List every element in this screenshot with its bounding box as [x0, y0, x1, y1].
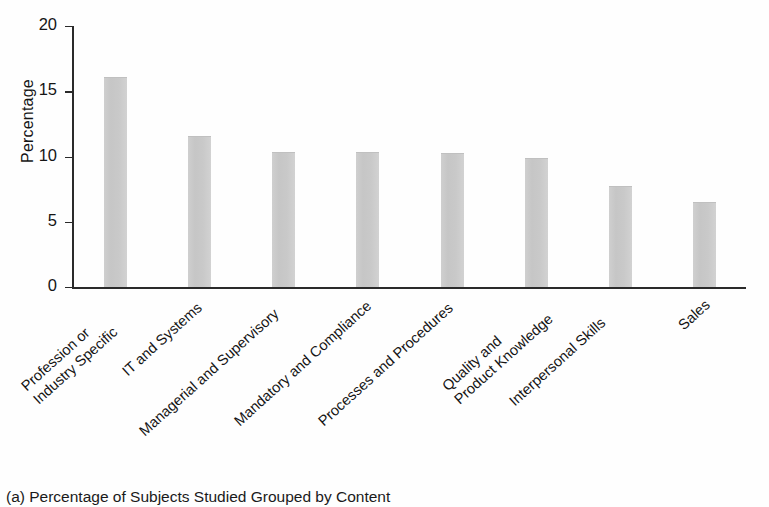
bar: [356, 152, 379, 287]
bar: [609, 186, 632, 287]
y-axis-tick-label: 20: [39, 15, 57, 34]
y-axis-tick-label: 0: [48, 276, 57, 295]
y-axis-tick-label: 5: [48, 211, 57, 230]
bar: [272, 152, 295, 287]
bar: [188, 136, 211, 287]
y-axis-title: Percentage: [19, 41, 37, 201]
y-axis-tick-label: 10: [39, 146, 57, 165]
x-axis-category-label: Profession orIndustry Specific: [18, 310, 121, 408]
x-axis-category-label: Processes and Procedures: [315, 300, 457, 430]
x-axis-category-label-line: Processes and Procedures: [315, 300, 457, 430]
x-axis-line: [72, 287, 746, 289]
x-axis-category-labels: Profession orIndustry SpecificIT and Sys…: [72, 292, 769, 432]
x-axis-category-label: Managerial and Supervisory: [136, 306, 283, 441]
x-axis-category-label-line: Mandatory and Compliance: [231, 298, 375, 430]
x-axis-category-label: Quality andProduct Knowledge: [439, 297, 556, 408]
x-axis-category-label-line: Sales: [675, 297, 714, 334]
bar: [693, 202, 716, 287]
bar-series: [72, 26, 746, 287]
x-axis-category-label-line: IT and Systems: [119, 299, 206, 380]
y-axis-tick-label: 15: [39, 80, 57, 99]
x-axis-category-label: IT and Systems: [119, 299, 206, 380]
figure-caption: (a) Percentage of Subjects Studied Group…: [6, 488, 606, 506]
bar-chart-figure: Percentage 05101520 Profession orIndustr…: [0, 0, 769, 507]
x-axis-category-label: Mandatory and Compliance: [231, 298, 375, 430]
y-axis-tick-mark: [65, 287, 73, 288]
bar: [104, 77, 127, 287]
x-axis-category-label: Sales: [675, 297, 714, 334]
plot-area: 05101520: [72, 26, 746, 291]
bar: [441, 153, 464, 287]
x-axis-category-label-line: Managerial and Supervisory: [136, 306, 283, 441]
bar: [525, 158, 548, 287]
